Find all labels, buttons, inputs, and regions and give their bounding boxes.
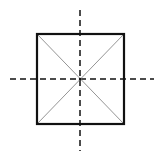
center-point — [79, 78, 81, 80]
square-diagram — [0, 0, 162, 152]
